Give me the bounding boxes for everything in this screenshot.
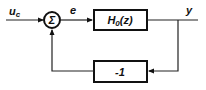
feedback-line-left [52,30,94,71]
output-label: y [185,4,193,16]
feedback-block-label: -1 [115,66,125,78]
sum-symbol: Σ [48,14,56,26]
feedback-line-right [149,20,178,71]
input-label: uc [9,5,21,19]
forward-block-label: H0(z) [107,14,133,28]
block-diagram: uc Σ e H0(z) y -1 [0,0,206,90]
error-label: e [70,4,76,16]
